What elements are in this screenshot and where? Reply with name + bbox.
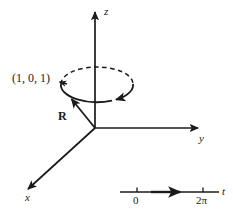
axis-label-t: t xyxy=(222,186,225,197)
vector-label-R: R xyxy=(58,110,67,122)
figure-container: z y x t (1, 0, 1) R 0 2π xyxy=(0,0,233,217)
orbit-curve-solid-half-left xyxy=(61,84,112,102)
axis-label-x: x xyxy=(25,192,30,203)
axis-label-y: y xyxy=(199,133,204,144)
axis-x xyxy=(28,128,95,189)
vector-diagram-canvas xyxy=(0,0,233,217)
axis-label-z: z xyxy=(104,6,108,17)
orbit-curve-solid-half xyxy=(116,84,133,100)
t-axis-tick-label-0: 0 xyxy=(133,195,139,206)
point-coordinate-label: (1, 0, 1) xyxy=(12,72,50,84)
orbit-curve-dashed-half xyxy=(61,67,133,84)
vector-R xyxy=(72,99,96,128)
t-axis-tick-label-2pi: 2π xyxy=(196,195,207,206)
